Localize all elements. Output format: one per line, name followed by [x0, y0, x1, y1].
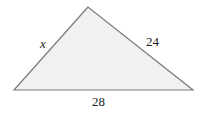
side-label-base: 28 [92, 94, 105, 109]
side-label-left: x [39, 36, 46, 51]
side-label-right: 24 [146, 34, 160, 49]
triangle-diagram: x 24 28 [0, 0, 203, 114]
